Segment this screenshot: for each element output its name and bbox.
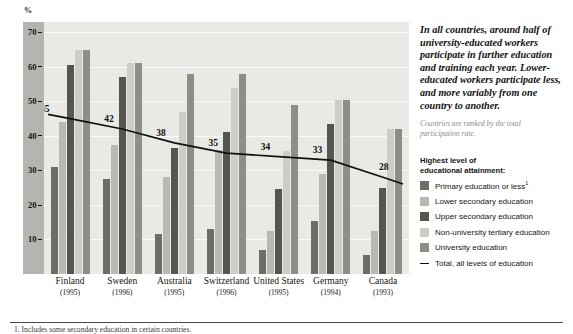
- bar: [179, 112, 186, 274]
- callout-headline: In all countries, around half of univers…: [420, 24, 566, 112]
- bar-group: [363, 22, 402, 274]
- square-swatch-icon: [420, 228, 429, 237]
- footnote-text: 1. Includes some secondary education in …: [14, 325, 559, 334]
- legend-item-label: Non-university tertiary education: [435, 228, 550, 237]
- bar-group: [103, 22, 142, 274]
- bar: [291, 105, 298, 274]
- trend-value-label: 38: [156, 128, 166, 138]
- legend-footnote-marker: 1: [525, 180, 528, 186]
- trend-value-label: 28: [379, 162, 389, 172]
- bar-group: [51, 22, 90, 274]
- y-axis-tick-dash: [38, 66, 42, 67]
- bar: [275, 189, 282, 274]
- legend-item-label: Upper secondary education: [435, 212, 533, 221]
- bar: [223, 132, 230, 274]
- bar: [371, 231, 378, 274]
- bar: [267, 231, 274, 274]
- y-axis-tick-dash: [38, 32, 42, 33]
- x-axis-label: Canada(1993): [351, 276, 415, 298]
- side-panel: In all countries, around half of univers…: [420, 24, 570, 309]
- plot-area: 45423835343328: [44, 22, 409, 274]
- bar: [111, 145, 118, 274]
- legend-item-label: University education: [435, 243, 507, 252]
- legend-title-line-2: educational attainment:: [420, 166, 570, 175]
- y-axis-tick-label: 20: [28, 200, 37, 210]
- bar: [187, 74, 194, 274]
- legend-item-label: Lower secondary education: [435, 197, 533, 206]
- y-axis-tick-label: 60: [28, 62, 37, 72]
- y-axis-tick-dash: [38, 205, 42, 206]
- y-axis-tick-label: 10: [28, 234, 37, 244]
- y-axis-tick-label: 40: [28, 131, 37, 141]
- bar: [127, 63, 134, 274]
- y-axis-tick: 70: [8, 27, 42, 37]
- y-axis-tick: 10: [8, 234, 42, 244]
- bar: [155, 234, 162, 274]
- bar: [171, 148, 178, 274]
- x-axis-country-name: Canada: [351, 276, 415, 287]
- square-swatch-icon: [420, 197, 429, 206]
- trend-value-label: 35: [209, 138, 219, 148]
- bar: [119, 77, 126, 274]
- bar: [379, 188, 386, 274]
- y-axis-tick-dash: [38, 135, 42, 136]
- bar: [343, 100, 350, 274]
- y-axis-tick: 40: [8, 131, 42, 141]
- legend-item-label: Total, all levels of education: [435, 259, 533, 268]
- x-axis-country-year: (1993): [351, 287, 415, 298]
- legend-item[interactable]: University education: [420, 243, 570, 253]
- bar: [75, 50, 82, 274]
- legend-item[interactable]: Lower secondary education: [420, 196, 570, 206]
- y-axis-tick-label: 50: [28, 96, 37, 106]
- trend-value-label: 42: [104, 114, 114, 124]
- square-swatch-icon: [420, 212, 429, 221]
- legend-item-label: Primary education or less1: [435, 180, 528, 191]
- legend-item[interactable]: Primary education or less1: [420, 181, 570, 191]
- square-swatch-icon: [420, 181, 429, 190]
- bar: [283, 151, 290, 274]
- bar: [135, 63, 142, 274]
- legend-item[interactable]: Total, all levels of education: [420, 258, 570, 268]
- bar: [387, 129, 394, 274]
- trend-value-label: 33: [313, 145, 323, 155]
- bar: [259, 250, 266, 274]
- legend-title-line-1: Highest level of: [420, 156, 570, 165]
- bar: [311, 221, 318, 275]
- square-swatch-icon: [420, 243, 429, 252]
- bar: [395, 129, 402, 274]
- legend-item[interactable]: Non-university tertiary education: [420, 227, 570, 237]
- bar: [163, 177, 170, 274]
- bar: [51, 167, 58, 274]
- y-axis-tick-dash: [38, 101, 42, 102]
- bar: [67, 65, 74, 274]
- y-axis-tick: 60: [8, 62, 42, 72]
- y-axis-tick-dash: [38, 239, 42, 240]
- bar-group: [155, 22, 194, 274]
- y-axis-unit-label: %: [24, 6, 32, 15]
- y-axis-tick: 30: [8, 165, 42, 175]
- trend-value-label: 45: [44, 104, 50, 114]
- bar: [83, 50, 90, 274]
- legend-title: Highest level of educational attainment:: [420, 156, 570, 175]
- bar: [319, 174, 326, 274]
- legend: Primary education or less1Lower secondar…: [420, 181, 570, 269]
- y-axis-tick-label: 70: [28, 27, 37, 37]
- trend-value-label: 34: [261, 142, 271, 152]
- bar: [327, 124, 334, 274]
- legend-item[interactable]: Upper secondary education: [420, 212, 570, 222]
- y-axis-tick-dash: [38, 170, 42, 171]
- footnote-divider: [10, 322, 563, 323]
- line-swatch-icon: [420, 259, 429, 268]
- x-axis-labels: Finland(1995)Sweden(1996)Australia(1995)…: [44, 276, 409, 322]
- y-axis-tick-label: 30: [28, 165, 37, 175]
- bar: [215, 150, 222, 274]
- bar: [239, 74, 246, 274]
- bar: [335, 100, 342, 274]
- bar: [231, 88, 238, 274]
- y-axis-tick: 50: [8, 96, 42, 106]
- bar: [59, 122, 66, 274]
- callout-subnote: Countries are ranked by the total partic…: [420, 119, 560, 138]
- y-axis-tick: 20: [8, 200, 42, 210]
- bar: [103, 179, 110, 274]
